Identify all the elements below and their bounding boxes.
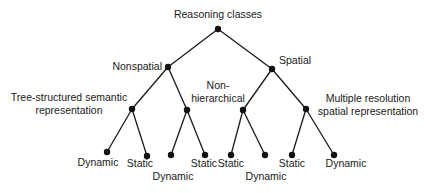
node-multi-resolution: [303, 106, 309, 112]
edge-non-hierarchical-dynamic: [243, 110, 265, 155]
edge-nonspatial-second: [168, 67, 187, 110]
label-tree-structured-line1: Tree-structured semantic: [11, 91, 127, 103]
label-non-hierarchical-line1: Non-: [207, 79, 230, 91]
labels: Reasoning classes Nonspatial Spatial Tre…: [11, 8, 419, 182]
node-leaf-6: [262, 152, 268, 158]
edge-spatial-non-hierarchical: [243, 69, 272, 110]
node-leaf-3: [168, 152, 174, 158]
label-leaf-7: Static: [279, 157, 305, 169]
node-leaf-1: [104, 149, 110, 155]
label-leaf-6: Dynamic: [246, 170, 287, 182]
label-multi-resolution-line1: Multiple resolution: [326, 92, 411, 104]
edge-spatial-multi-resolution: [272, 69, 306, 109]
label-multi-resolution-line2: spatial representation: [318, 105, 419, 117]
edge-second-static: [187, 110, 205, 155]
node-tree-structured: [129, 106, 135, 112]
edge-tree-structured-static: [132, 109, 147, 156]
label-nonspatial: Nonspatial: [112, 60, 162, 72]
node-nonspatial: [165, 64, 171, 70]
node-nonspatial-second: [184, 107, 190, 113]
label-tree-structured-line2: representation: [35, 104, 102, 116]
edge-root-nonspatial: [168, 29, 218, 67]
label-leaf-3: Dynamic: [153, 170, 194, 182]
label-leaf-2: Static: [127, 157, 153, 169]
edge-nonspatial-tree-structured: [132, 67, 168, 109]
label-leaf-8: Dynamic: [326, 157, 367, 169]
label-leaf-4: Static: [191, 157, 217, 169]
edge-non-hierarchical-static: [231, 110, 243, 155]
node-non-hierarchical: [240, 107, 246, 113]
label-leaf-5: Static: [218, 157, 244, 169]
reasoning-classes-tree-diagram: Reasoning classes Nonspatial Spatial Tre…: [0, 0, 424, 193]
edge-multi-resolution-static: [292, 109, 306, 155]
edge-tree-structured-dynamic: [107, 109, 132, 152]
edge-second-dynamic: [171, 110, 187, 155]
edge-root-spatial: [218, 29, 272, 69]
node-spatial: [269, 66, 275, 72]
label-root: Reasoning classes: [174, 8, 262, 20]
label-leaf-1: Dynamic: [78, 156, 119, 168]
label-spatial: Spatial: [279, 54, 311, 66]
node-root: [215, 26, 221, 32]
label-non-hierarchical-line2: hierarchical: [191, 92, 245, 104]
